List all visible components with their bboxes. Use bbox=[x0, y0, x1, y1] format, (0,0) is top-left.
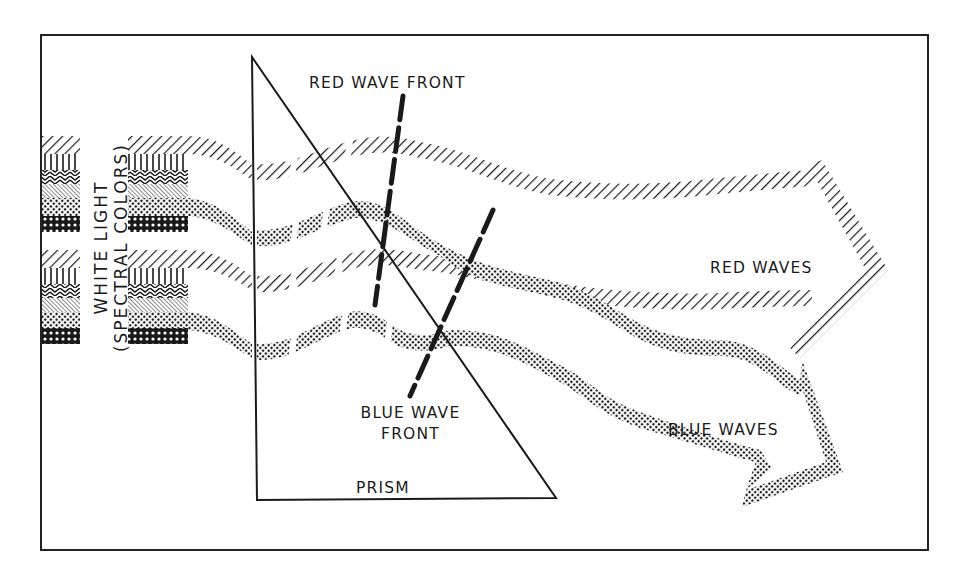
blue-wave-front-label-line2: FRONT bbox=[348, 426, 473, 443]
red-wave-front-line bbox=[375, 96, 403, 305]
diagram-canvas bbox=[0, 0, 961, 580]
white-light-label-line1: WHITE LIGHT bbox=[92, 128, 112, 368]
blue-wave-front-label-line1: BLUE WAVE bbox=[348, 405, 473, 422]
prism-label: PRISM bbox=[356, 480, 410, 497]
blue-wave-front-label: BLUE WAVE FRONT bbox=[348, 405, 473, 443]
red-waves-arrow bbox=[420, 142, 888, 358]
bands-in-prism bbox=[257, 125, 450, 375]
red-wave-front-label: RED WAVE FRONT bbox=[309, 75, 466, 92]
spectral-stack-left bbox=[42, 136, 80, 344]
blue-waves-label: BLUE WAVES bbox=[668, 422, 779, 439]
red-waves-label: RED WAVES bbox=[710, 260, 813, 277]
blue-waves-arrow bbox=[430, 238, 843, 507]
prism-refraction-diagram: WHITE LIGHT (SPECTRAL COLORS) RED WAVE F… bbox=[0, 0, 961, 580]
spectral-stack-right bbox=[128, 136, 188, 344]
white-light-label: WHITE LIGHT (SPECTRAL COLORS) bbox=[92, 128, 131, 368]
white-light-label-line2: (SPECTRAL COLORS) bbox=[112, 128, 132, 368]
